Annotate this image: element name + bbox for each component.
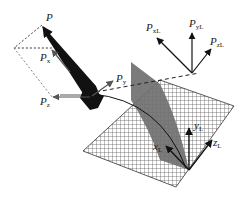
label-Py-main: P xyxy=(116,72,123,84)
label-PyL-main: P xyxy=(189,17,196,29)
label-P-main: P xyxy=(46,11,53,23)
label-yL-sub: L xyxy=(199,125,203,133)
label-Px: Px xyxy=(40,52,50,65)
label-PxL: PxL xyxy=(146,22,161,35)
rocket-fins xyxy=(80,88,104,110)
label-xL: xL xyxy=(153,141,162,154)
label-PzL-main: P xyxy=(210,35,217,47)
label-Pz: Pz xyxy=(40,96,50,109)
label-Pz-sub: z xyxy=(47,101,50,109)
vector-PzL xyxy=(192,49,211,73)
label-zL-sub: L xyxy=(217,142,221,150)
label-Px-main: P xyxy=(40,51,47,63)
label-Px-sub: x xyxy=(47,57,51,65)
label-PzL-sub: zL xyxy=(217,41,224,49)
label-Py-sub: y xyxy=(123,78,127,86)
label-PyL: PyL xyxy=(189,18,204,31)
rocket-force-diagram xyxy=(0,0,249,198)
label-PyL-sub: yL xyxy=(196,23,204,31)
label-Py: Py xyxy=(116,73,126,86)
force-parallelogram xyxy=(14,25,52,48)
label-PxL-sub: xL xyxy=(153,27,161,35)
label-PxL-main: P xyxy=(146,21,153,33)
vector-PxL xyxy=(157,38,192,73)
label-zL: zL xyxy=(213,137,222,150)
label-P: P xyxy=(46,12,53,23)
label-xL-sub: L xyxy=(158,146,162,154)
label-PzL: PzL xyxy=(210,36,224,49)
label-yL: yL xyxy=(194,120,203,133)
label-Pz-main: P xyxy=(40,95,47,107)
